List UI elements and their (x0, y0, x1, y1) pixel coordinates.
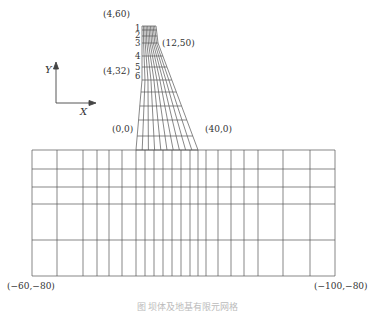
mesh-line (186, 132, 187, 134)
mesh-line (163, 64, 164, 66)
mesh-line (159, 52, 160, 54)
mesh-line (170, 96, 171, 98)
coordinate-label-upstream-break: (4,32) (103, 67, 130, 76)
mesh-line (160, 70, 161, 72)
mesh-line (156, 48, 157, 50)
mesh-line (165, 68, 166, 70)
mesh-line (160, 60, 161, 62)
mesh-line (167, 74, 168, 76)
mesh-line (167, 68, 168, 70)
mesh-line (182, 138, 183, 140)
mesh-line (191, 130, 192, 132)
mesh-line (166, 64, 167, 66)
mesh-line (159, 50, 160, 52)
mesh-line (183, 110, 184, 112)
mesh-line (178, 122, 179, 124)
mesh-line (164, 58, 165, 60)
mesh-line (174, 108, 175, 110)
y-axis-label: Y (45, 64, 52, 75)
mesh-line (180, 114, 181, 116)
mesh-line (195, 142, 196, 144)
mesh-line (170, 94, 171, 96)
mesh-line (155, 48, 156, 50)
layer-number: 4 (135, 52, 140, 61)
mesh-line (170, 84, 171, 86)
mesh-line (162, 68, 163, 70)
mesh-line (177, 94, 178, 96)
mesh-line (173, 82, 174, 84)
mesh-line (171, 88, 172, 90)
mesh-line (175, 98, 176, 100)
mesh-line (184, 144, 185, 146)
mesh-line (180, 130, 181, 132)
mesh-line (180, 102, 181, 104)
mesh-line (153, 44, 154, 46)
layer-number: 6 (135, 72, 140, 81)
mesh-line (178, 108, 179, 110)
mesh-line (164, 74, 165, 76)
mesh-line (170, 82, 171, 84)
mesh-line (161, 50, 162, 52)
mesh-line (168, 86, 169, 88)
mesh-line (176, 92, 177, 94)
mesh-line (168, 70, 169, 72)
mesh-line (178, 124, 179, 126)
mesh-line (156, 52, 157, 54)
coordinate-label-toe: (40,0) (205, 125, 232, 134)
mesh-line (189, 126, 190, 128)
mesh-line (163, 70, 164, 72)
mesh-line (171, 86, 172, 88)
mesh-line (159, 46, 160, 48)
mesh-line (183, 142, 184, 144)
mesh-line (157, 44, 158, 46)
mesh-line (166, 82, 167, 84)
mesh-line (181, 132, 182, 134)
mesh-line (176, 116, 177, 118)
mesh-line (175, 114, 176, 116)
mesh-line (172, 102, 173, 104)
mesh-line (174, 86, 175, 88)
x-axis-label: X (80, 106, 87, 117)
mesh-line (169, 72, 170, 74)
mesh-line (161, 58, 162, 60)
mesh-line (165, 62, 166, 64)
mesh-line (189, 142, 190, 144)
mesh-line (175, 112, 176, 114)
mesh-line (173, 84, 174, 86)
mesh-line (194, 138, 195, 140)
mesh-line (170, 76, 171, 78)
mesh-line (167, 66, 168, 68)
mesh-line (184, 126, 185, 128)
coordinate-label-foundation-left-bottom: (−60,−80) (7, 282, 55, 291)
coordinate-label-heel: (0,0) (112, 125, 133, 134)
mesh-line (175, 88, 176, 90)
mesh-line (161, 72, 162, 74)
mesh-line (162, 66, 163, 68)
mesh-line (179, 128, 180, 130)
mesh-line (197, 146, 198, 148)
coordinate-label-crest-upstream: (4,60) (103, 10, 130, 19)
mesh-line (171, 98, 172, 100)
mesh-line (188, 124, 189, 126)
mesh-line (165, 76, 166, 78)
mesh-line (173, 94, 174, 96)
mesh-line (182, 108, 183, 110)
mesh-line (160, 48, 161, 50)
mesh-line (155, 44, 156, 46)
mesh-line (185, 116, 186, 118)
mesh-line (184, 112, 185, 114)
mesh-line (161, 64, 162, 66)
mesh-line (162, 60, 163, 62)
mesh-line (179, 100, 180, 102)
mesh-line (163, 56, 164, 58)
mesh-line (154, 46, 155, 48)
coordinate-label-foundation-right-bottom: (−100,−80) (314, 282, 368, 291)
mesh-line (163, 62, 164, 64)
mesh-line (155, 50, 156, 52)
coordinate-axes-icon (54, 62, 97, 106)
mesh-line (158, 60, 159, 62)
mesh-line (162, 76, 163, 78)
mesh-line (191, 132, 192, 134)
mesh-line (172, 80, 173, 82)
mesh-line (193, 136, 194, 138)
